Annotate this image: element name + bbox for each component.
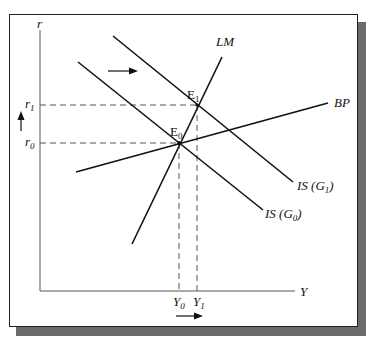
y-axis-label: r <box>37 16 43 31</box>
bp-label: BP <box>334 95 350 110</box>
lm-curve <box>132 57 222 244</box>
arrow-right-icon <box>108 68 138 75</box>
arrow-up-icon <box>18 111 25 131</box>
r0-tick-label: r0 <box>25 134 35 151</box>
is-g0-label: IS (G0) <box>264 206 302 223</box>
arrow-right-bottom-icon <box>176 313 203 320</box>
y1-tick-label: Y1 <box>193 294 205 311</box>
is-lm-bp-diagram: r Y LM BP IS (G1) IS (G0) E0 E1 r1 r0 Y0… <box>0 0 375 342</box>
e0-label: E0 <box>170 124 183 141</box>
x-axis-label: Y <box>300 284 309 299</box>
lm-label: LM <box>215 34 235 49</box>
is-g1-curve <box>113 36 293 182</box>
e1-label: E1 <box>187 87 199 104</box>
y0-tick-label: Y0 <box>173 294 185 311</box>
r1-tick-label: r1 <box>25 96 35 113</box>
e0-point <box>177 141 181 145</box>
is-g1-label: IS (G1) <box>296 178 334 195</box>
